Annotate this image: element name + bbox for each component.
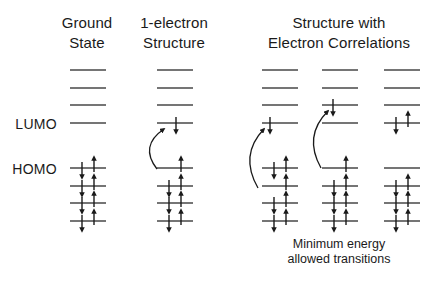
- excitation-arrow: [250, 129, 264, 188]
- energy-column-correlation-double-excitation: [384, 70, 420, 231]
- molecular-orbital-diagram-figure: Ground State 1-electron Structure Struct…: [0, 0, 435, 283]
- energy-column-ground-state: [70, 70, 106, 231]
- energy-column-correlation-homo-to-lumo1: [313, 70, 358, 231]
- excitation-arrow: [313, 111, 328, 168]
- energy-level-diagram: [0, 0, 435, 283]
- energy-column-one-electron-structure: [149, 70, 193, 231]
- excitation-arrow: [149, 129, 164, 169]
- energy-column-correlation-homo1-to-lumo: [250, 70, 298, 231]
